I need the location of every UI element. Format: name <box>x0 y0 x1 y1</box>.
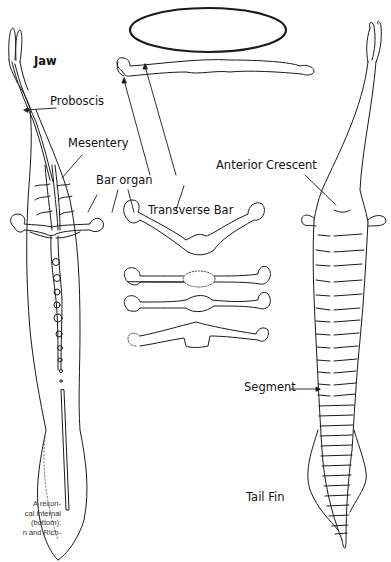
caption-fragment: A recon- cal internal (bottom): n and Ri… <box>0 499 61 537</box>
label-mesentery: Mesentery <box>68 138 128 150</box>
transverse-bars <box>124 200 271 348</box>
label-jaw: Jaw <box>34 56 57 68</box>
anatomy-drawing <box>0 0 391 562</box>
label-bar-organ: Bar organ <box>96 175 153 187</box>
label-transverse-bar: Transverse Bar <box>148 205 233 217</box>
label-proboscis: Proboscis <box>50 96 104 108</box>
label-segment: Segment <box>244 382 296 394</box>
bar-organ-loop-drawing <box>117 8 314 76</box>
label-anterior-crescent: Anterior Crescent <box>216 160 317 172</box>
label-tail-fin: Tail Fin <box>246 492 284 504</box>
right-specimen-external <box>302 21 386 548</box>
leader-lines <box>24 64 336 391</box>
